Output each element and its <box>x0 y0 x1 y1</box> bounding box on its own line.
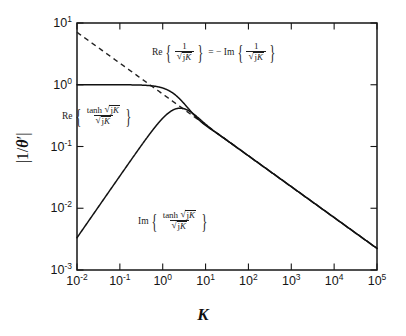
x-tick-label: 105 <box>368 274 387 288</box>
fraction-denominator: jK <box>94 115 114 126</box>
fraction-denominator: jK <box>246 51 266 62</box>
y-axis-label: |1/θ′| <box>14 133 32 164</box>
y-tick-label: 10-3 <box>30 263 72 277</box>
annotation-im-operator: Im <box>138 216 149 226</box>
annotation-asymptote: Re { 1 jK } = − Im { 1 jK } <box>152 42 278 63</box>
x-tick-label: 100 <box>153 274 172 288</box>
brace-open-icon: { <box>165 44 171 61</box>
x-tick-label: 10-1 <box>109 274 130 288</box>
brace-close-icon: } <box>198 44 204 61</box>
x-tick-label: 102 <box>239 274 258 288</box>
fraction: 1 jK <box>175 42 195 63</box>
x-tick-label: 104 <box>325 274 344 288</box>
brace-close-icon: } <box>125 108 131 125</box>
fraction: tanh jK jK <box>85 105 122 127</box>
annotation-re-operator: Re <box>152 47 163 57</box>
fraction-numerator: tanh jK <box>85 105 122 115</box>
fraction: 1 jK <box>246 42 266 63</box>
fraction-numerator: tanh jK <box>161 210 198 220</box>
annotation-re-operator: Re <box>62 111 73 121</box>
equals-minus-sign: = − <box>208 47 221 57</box>
brace-open-icon: { <box>75 108 81 125</box>
y-tick-label: 10-1 <box>30 140 72 154</box>
y-tick-label: 101 <box>30 16 72 30</box>
fraction-denominator: jK <box>170 220 190 231</box>
chart-figure: 10-2 10-1 100 101 102 103 104 105 101 10… <box>0 0 406 336</box>
y-tick-label: 100 <box>30 78 72 92</box>
brace-close-icon: } <box>269 44 275 61</box>
brace-open-icon: { <box>237 44 243 61</box>
imag-part-curve <box>77 108 377 248</box>
x-tick-label: 101 <box>196 274 215 288</box>
annotation-im-operator: Im <box>224 47 235 57</box>
annotation-imag-part: Im { tanh jK jK } <box>138 210 209 232</box>
annotation-real-part: Re { tanh jK jK } <box>62 105 133 127</box>
x-tick-label: 103 <box>282 274 301 288</box>
y-tick-label: 10-2 <box>30 201 72 215</box>
x-axis-label: K <box>197 305 208 325</box>
brace-close-icon: } <box>201 213 207 230</box>
brace-open-icon: { <box>151 213 157 230</box>
fraction-denominator: jK <box>175 51 195 62</box>
fraction: tanh jK jK <box>161 210 198 232</box>
